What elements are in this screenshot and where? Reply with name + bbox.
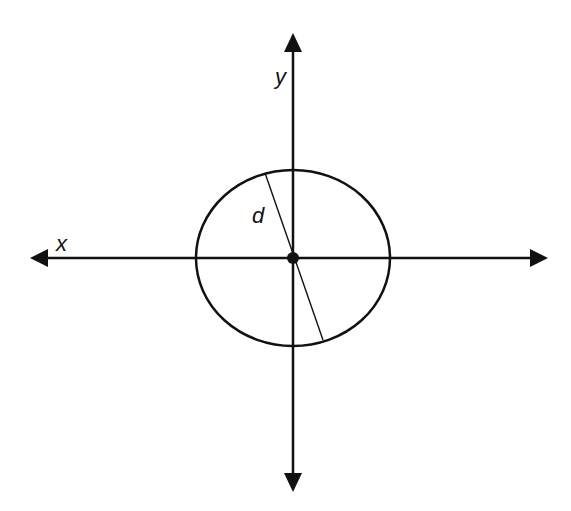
x-axis-right-arrow-icon: [530, 249, 548, 267]
x-axis-left-arrow-icon: [30, 249, 48, 267]
diameter-label: d: [252, 203, 265, 228]
x-axis-label: x: [55, 231, 68, 256]
diagram-canvas: x y d: [0, 0, 571, 511]
y-axis-top-arrow-icon: [284, 33, 302, 52]
origin-point: [287, 252, 299, 264]
y-axis-label: y: [273, 64, 288, 89]
y-axis-bottom-arrow-icon: [284, 473, 302, 492]
